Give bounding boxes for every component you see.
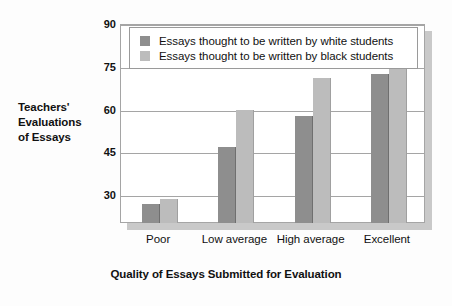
bar-high-average-series-2 <box>313 78 331 223</box>
legend-swatch-black-students <box>140 51 150 61</box>
chart-legend: Essays thought to be written by white st… <box>129 27 418 69</box>
y-tick-label-90: 90 <box>90 18 116 30</box>
legend-entry-black-students: Essays thought to be written by black st… <box>140 48 417 63</box>
bar-excellent-series-1 <box>371 74 389 223</box>
legend-label-white-students: Essays thought to be written by white st… <box>159 35 393 47</box>
bar-low-average-series-1 <box>218 147 236 223</box>
y-tick-label-75: 75 <box>90 61 116 73</box>
y-axis-title-line-3: of Essays <box>18 130 110 145</box>
chart-figure: Teachers' Evaluations of Essays 90 75 60… <box>0 0 452 306</box>
legend-label-black-students: Essays thought to be written by black st… <box>159 50 393 62</box>
y-axis-title-line-2: Evaluations <box>18 115 110 130</box>
legend-entry-white-students: Essays thought to be written by white st… <box>140 33 417 48</box>
x-axis-tick-labels: PoorLow averageHigh averageExcellent <box>120 233 425 249</box>
bar-poor-series-1 <box>142 204 160 223</box>
bar-excellent-series-2 <box>389 63 407 223</box>
legend-swatch-white-students <box>140 36 150 46</box>
bar-low-average-series-2 <box>236 110 254 223</box>
y-tick-label-30: 30 <box>90 189 116 201</box>
bar-high-average-series-1 <box>295 116 313 223</box>
x-tick-label-excellent: Excellent <box>349 233 425 245</box>
bar-poor-series-2 <box>160 199 178 223</box>
x-tick-label-high-average: High average <box>273 233 349 245</box>
x-axis-title: Quality of Essays Submitted for Evaluati… <box>0 268 452 280</box>
x-tick-label-poor: Poor <box>120 233 196 245</box>
y-tick-label-60: 60 <box>90 104 116 116</box>
x-tick-label-low-average: Low average <box>196 233 272 245</box>
y-tick-label-45: 45 <box>90 146 116 158</box>
